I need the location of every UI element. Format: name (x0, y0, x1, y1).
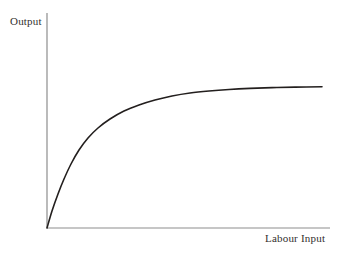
x-axis-label: Labour Input (265, 232, 325, 244)
y-axis-label: Output (10, 15, 42, 27)
chart-canvas (0, 0, 337, 253)
production-function-figure: Output Labour Input (0, 0, 337, 253)
production-function-curve (47, 87, 322, 228)
